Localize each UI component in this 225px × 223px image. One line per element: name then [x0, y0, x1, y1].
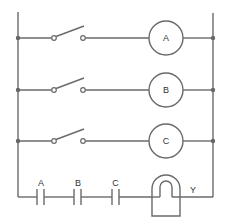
coil-y-label: Y: [190, 185, 196, 195]
junction-dot: [211, 36, 215, 40]
switch-blade: [56, 129, 84, 140]
output-rung: A B C Y: [18, 175, 213, 216]
switch-blade: [56, 26, 84, 37]
lamp-b-label: B: [163, 85, 169, 95]
junction-dot: [16, 36, 20, 40]
contact-a-label: A: [38, 178, 44, 188]
ladder-diagram: A B C A: [0, 0, 225, 223]
contact-b-label: B: [75, 178, 81, 188]
lamp-c-label: C: [163, 136, 170, 146]
switch-blade: [56, 78, 84, 89]
junction-dot: [211, 88, 215, 92]
contact-c-label: C: [112, 178, 119, 188]
coil-y: Y: [152, 175, 196, 216]
switch-terminal: [81, 139, 86, 144]
contact-c: C: [112, 178, 119, 205]
rung-c: C: [16, 124, 215, 158]
contact-a: A: [37, 178, 44, 205]
contact-b: B: [74, 178, 81, 205]
junction-dot: [211, 139, 215, 143]
lamp-a-label: A: [163, 33, 169, 43]
switch-terminal: [81, 88, 86, 93]
rung-a: A: [16, 21, 215, 55]
switch-terminal: [52, 88, 57, 93]
switch-terminal: [52, 36, 57, 41]
junction-dot: [16, 139, 20, 143]
switch-terminal: [52, 139, 57, 144]
rung-b: B: [16, 73, 215, 107]
junction-dot: [16, 88, 20, 92]
switch-terminal: [81, 36, 86, 41]
